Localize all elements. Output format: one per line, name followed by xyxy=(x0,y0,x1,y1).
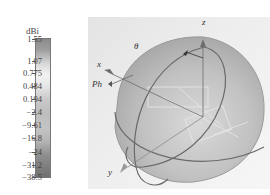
colorbar-tick-mark xyxy=(32,86,36,87)
theta-label: θ xyxy=(134,41,138,51)
x-label: x xyxy=(97,59,101,69)
colorbar-tick-mark xyxy=(32,138,36,139)
y-label: y xyxy=(108,167,112,177)
phi-label: Ph xyxy=(92,79,102,89)
colorbar-tick-mark xyxy=(32,99,36,100)
colorbar-tick-mark xyxy=(32,125,36,126)
radiation-pattern-3d xyxy=(88,17,270,189)
y-arrow-icon xyxy=(120,163,128,173)
x-arrow-icon xyxy=(104,69,114,75)
colorbar-tick-mark xyxy=(32,177,36,178)
colorbar-tick-mark xyxy=(32,61,36,62)
colorbar-tick-mark xyxy=(32,112,36,113)
phi-arrow-icon xyxy=(108,81,112,87)
colorbar-tick-mark xyxy=(32,73,36,74)
colorbar-tick-mark xyxy=(32,152,36,153)
colorbar-tick-mark xyxy=(32,165,36,166)
colorbar: dBi 1.551.070.7750.4840.194−2.4−9.61−16.… xyxy=(0,0,80,195)
colorbar-tick-mark xyxy=(32,39,36,40)
z-label: z xyxy=(202,17,206,27)
radiation-pattern-panel: θ z x Ph y xyxy=(88,17,270,189)
